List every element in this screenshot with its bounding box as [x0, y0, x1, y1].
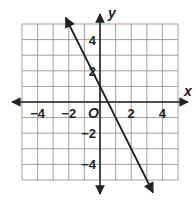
- coordinate-plane: −4−22442−2−4 x y O: [0, 0, 196, 203]
- x-tick-label: 2: [128, 106, 135, 121]
- function-line: [66, 18, 153, 193]
- y-tick-label: −2: [81, 126, 96, 141]
- x-tick-label: 4: [159, 106, 167, 121]
- x-tick-label: −4: [30, 106, 46, 121]
- axes: [12, 14, 188, 194]
- y-tick-label: 4: [89, 33, 97, 48]
- x-axis-label: x: [183, 83, 193, 99]
- y-axis-label: y: [107, 5, 117, 21]
- y-tick-label: −4: [81, 157, 97, 172]
- x-tick-label: −2: [61, 106, 76, 121]
- origin-label: O: [88, 105, 99, 121]
- plot-line: [66, 18, 153, 193]
